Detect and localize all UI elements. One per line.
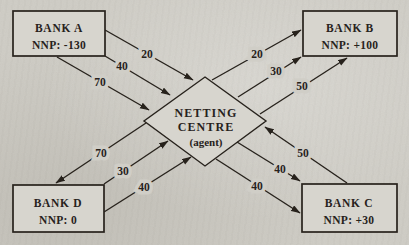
flow-amount-d-40: 40 (138, 181, 150, 193)
scanned-diagram-page: NETTING CENTRE (agent) (0, 0, 409, 245)
bank-d-nnp: NNP: 0 (39, 214, 77, 226)
bank-c-nnp: NNP: +30 (324, 214, 375, 226)
netting-diagram: NETTING CENTRE (agent) (0, 0, 409, 245)
flow-amount-d-70: 70 (95, 147, 107, 159)
bank-a-name: BANK A (35, 22, 83, 34)
bank-a: BANK A NNP: -130 (13, 11, 105, 56)
flow-amount-a-40: 40 (116, 60, 128, 72)
bank-d-name: BANK D (34, 197, 83, 209)
flow-amount-d-30: 30 (117, 165, 129, 177)
flow-amount-a-70: 70 (94, 76, 106, 88)
flow-amount-b-20: 20 (251, 48, 263, 60)
flow-amount-b-50: 50 (296, 80, 308, 92)
flow-amount-c-40b: 40 (251, 180, 263, 192)
flow-amount-c-50: 50 (297, 147, 309, 159)
netting-centre-role: (agent) (190, 136, 223, 149)
flow-amount-b-30: 30 (270, 65, 282, 77)
bank-c-name: BANK C (325, 197, 374, 209)
bank-a-nnp: NNP: -130 (32, 39, 86, 51)
bank-b-name: BANK B (326, 22, 374, 34)
bank-d: BANK D NNP: 0 (13, 185, 104, 232)
flow-amount-c-40a: 40 (274, 163, 286, 175)
flow-amount-a-20: 20 (141, 48, 153, 60)
bank-c: BANK C NNP: +30 (302, 184, 397, 232)
netting-centre-name-line2: CENTRE (178, 120, 235, 134)
netting-centre-name-line1: NETTING (174, 106, 237, 120)
bank-b: BANK B NNP: +100 (303, 11, 397, 56)
bank-b-nnp: NNP: +100 (322, 39, 379, 51)
